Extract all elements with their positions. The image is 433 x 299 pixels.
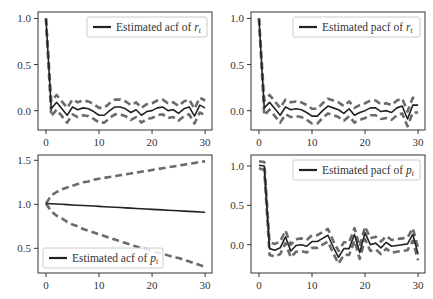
- y-tick-label: 1.0: [17, 12, 31, 24]
- legend-label: Estimated acf of rt: [116, 21, 202, 35]
- x-tick-label: 0: [43, 136, 49, 148]
- x-tick-label: 30: [413, 136, 425, 148]
- y-tick-label: 0.0: [230, 105, 244, 117]
- y-tick-label: 0.5: [230, 199, 244, 211]
- y-tick-label: 1.0: [230, 160, 244, 172]
- x-tick-label: 20: [360, 279, 372, 291]
- legend-label: Estimated pacf of rt: [322, 21, 413, 35]
- x-tick-label: 10: [307, 279, 319, 291]
- legend: Estimated pacf of rt: [293, 17, 420, 37]
- x-tick-label: 30: [200, 136, 212, 148]
- x-tick-label: 0: [256, 136, 262, 148]
- x-tick-label: 30: [413, 279, 425, 291]
- legend-label: Estimated acf of pt: [72, 252, 159, 266]
- x-tick-label: 10: [94, 279, 106, 291]
- x-tick-label: 20: [147, 136, 159, 148]
- y-tick-label: 1.0: [230, 12, 244, 24]
- y-tick-label: 0.0: [230, 239, 244, 251]
- x-tick-label: 20: [360, 136, 372, 148]
- legend: Estimated acf of pt: [43, 248, 163, 268]
- y-tick-label: 0.5: [17, 59, 31, 71]
- x-tick-label: 30: [200, 279, 212, 291]
- x-tick-label: 0: [43, 279, 49, 291]
- y-tick-label: 1.0: [17, 198, 31, 210]
- x-tick-label: 20: [147, 279, 159, 291]
- y-tick-label: 1.5: [17, 154, 31, 166]
- y-tick-label: 0.0: [17, 105, 31, 117]
- figure: 01020300.00.51.0Estimated acf of rt 0102…: [0, 0, 433, 299]
- legend: Estimated pacf of pt: [293, 160, 420, 180]
- x-tick-label: 10: [94, 136, 106, 148]
- y-tick-label: 0.5: [230, 59, 244, 71]
- y-tick-label: 0.5: [17, 242, 31, 254]
- x-tick-label: 10: [307, 136, 319, 148]
- legend-label: Estimated pacf of pt: [322, 164, 415, 178]
- x-tick-label: 0: [256, 279, 262, 291]
- legend: Estimated acf of rt: [87, 17, 207, 37]
